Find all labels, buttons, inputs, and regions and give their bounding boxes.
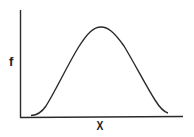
chart-canvas [0,0,194,137]
x-axis-label: X [97,119,104,133]
distribution-curve [31,27,168,116]
x-axis [20,117,183,118]
y-axis-label: f [9,54,13,69]
